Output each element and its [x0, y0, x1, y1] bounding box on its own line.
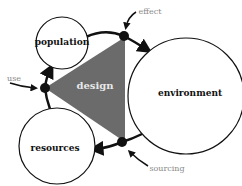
- design-label: design: [76, 80, 113, 91]
- use-label: use: [7, 74, 21, 83]
- use-pointer-arrow: [10, 83, 35, 88]
- resources-label: resources: [30, 143, 79, 153]
- use-node-dot: [40, 83, 50, 93]
- environment-label: environment: [158, 88, 222, 98]
- design-cycle-diagram: population environment resources design …: [0, 0, 242, 186]
- population-label: population: [35, 37, 90, 47]
- sourcing-node-dot: [117, 137, 127, 147]
- sourcing-label: sourcing: [149, 164, 184, 173]
- sourcing-pointer-arrow: [130, 152, 148, 166]
- effect-node-dot: [119, 31, 129, 41]
- effect-pointer-arrow: [126, 12, 136, 27]
- cycle-arc-population-effect: [86, 32, 124, 37]
- effect-label: effect: [139, 7, 162, 16]
